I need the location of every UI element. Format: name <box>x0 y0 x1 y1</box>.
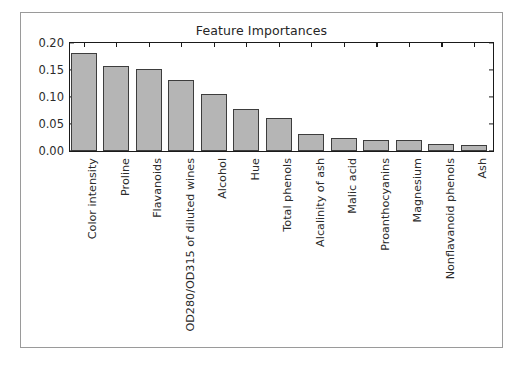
y-tick-mark <box>489 96 493 97</box>
bar <box>363 140 389 151</box>
x-tick-label: Malic acid <box>347 158 358 214</box>
x-tick-label: Alcohol <box>217 158 228 199</box>
bar <box>461 145 487 151</box>
x-tick-mark <box>409 43 410 47</box>
x-tick-mark <box>441 43 442 47</box>
bar <box>331 138 357 151</box>
bar <box>298 134 324 151</box>
x-tick-label: Nonflavanoid phenols <box>445 158 456 279</box>
y-tick-mark <box>489 150 493 151</box>
y-tick-mark <box>489 69 493 70</box>
y-tick-mark <box>489 123 493 124</box>
bar <box>168 80 194 151</box>
x-tick-label: Proanthocyanins <box>380 158 391 251</box>
bar <box>103 66 129 151</box>
x-tick-mark <box>246 43 247 47</box>
x-tick-label: Alcalinity of ash <box>315 158 326 247</box>
x-tick-label: Total phenols <box>282 158 293 232</box>
bar <box>396 140 422 151</box>
x-tick-label: Hue <box>250 158 261 180</box>
x-tick-mark <box>311 43 312 47</box>
y-tick-label: 0.10 <box>38 90 64 104</box>
x-tick-label: Proline <box>120 158 131 196</box>
x-tick-label: Ash <box>477 158 488 179</box>
y-tick-label: 0.05 <box>38 117 64 131</box>
bar <box>266 118 292 151</box>
x-tick-mark <box>376 43 377 47</box>
x-tick-label: Flavanoids <box>152 158 163 218</box>
bar <box>201 94 227 151</box>
bar <box>233 109 259 151</box>
y-tick-label: 0.20 <box>38 36 64 50</box>
x-tick-label: Color intensity <box>87 158 98 239</box>
x-tick-mark <box>474 43 475 47</box>
x-tick-mark <box>149 43 150 47</box>
y-tick-label: 0.15 <box>38 63 64 77</box>
plot-axes: 0.000.050.100.150.20 <box>69 42 494 152</box>
x-tick-mark <box>214 43 215 47</box>
x-tick-mark <box>181 43 182 47</box>
bar <box>71 53 97 151</box>
x-tick-mark <box>279 43 280 47</box>
bar <box>428 144 454 151</box>
y-tick-label: 0.00 <box>38 144 64 158</box>
x-tick-label: Magnesium <box>412 158 423 223</box>
figure-canvas: Feature Importances 0.000.050.100.150.20… <box>20 12 503 348</box>
x-axis-labels: Color intensityProlineFlavanoidsOD280/OD… <box>69 158 494 343</box>
x-tick-mark <box>344 43 345 47</box>
y-tick-mark <box>70 42 74 43</box>
x-tick-mark <box>84 43 85 47</box>
bar <box>136 69 162 151</box>
chart-title: Feature Importances <box>21 23 502 38</box>
x-tick-mark <box>116 43 117 47</box>
x-tick-label: OD280/OD315 of diluted wines <box>185 158 196 332</box>
y-tick-mark <box>489 42 493 43</box>
